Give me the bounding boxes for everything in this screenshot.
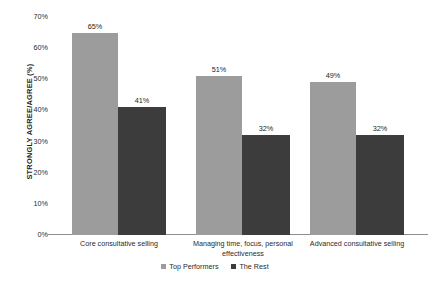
bar-group-0-the-rest xyxy=(118,107,166,235)
bar-value-label-g0s1: 41% xyxy=(118,97,166,105)
y-tick-20: 20% xyxy=(22,169,48,177)
bar-value-label-g2s0: 49% xyxy=(310,72,356,80)
bar-group-0-top-performers xyxy=(72,33,118,235)
legend-swatch-icon-top-performers xyxy=(161,264,166,269)
y-tick-30: 30% xyxy=(22,138,48,146)
legend-item-top-performers: Top Performers xyxy=(161,262,218,271)
legend-item-the-rest: The Rest xyxy=(231,262,268,271)
chart-legend: Top Performers The Rest xyxy=(0,262,430,271)
category-label-0: Core consultative selling xyxy=(59,239,179,249)
y-tick-40: 40% xyxy=(22,106,48,114)
bar-group-1-top-performers xyxy=(196,76,242,235)
y-tick-60: 60% xyxy=(22,44,48,52)
legend-label-top-performers: Top Performers xyxy=(169,262,218,271)
bar-group-1-the-rest xyxy=(242,135,290,235)
y-tick-10: 10% xyxy=(22,200,48,208)
y-tick-50: 50% xyxy=(22,75,48,83)
bar-value-label-g2s1: 32% xyxy=(356,125,404,133)
bar-group-2-top-performers xyxy=(310,82,356,235)
category-label-2: Advanced consultative selling xyxy=(299,239,415,249)
bar-group-2-the-rest xyxy=(356,135,404,235)
bar-value-label-g0s0: 65% xyxy=(72,23,118,31)
legend-label-the-rest: The Rest xyxy=(239,262,268,271)
y-tick-0: 0% xyxy=(22,231,48,239)
bar-chart: STRONGLY AGREE/AGREE (%) 70% 60% 50% 40%… xyxy=(0,0,430,291)
y-tick-70: 70% xyxy=(22,13,48,21)
bar-value-label-g1s1: 32% xyxy=(242,125,290,133)
legend-swatch-icon-the-rest xyxy=(231,264,236,269)
category-label-1: Managing time, focus, personal effective… xyxy=(184,239,302,258)
bar-value-label-g1s0: 51% xyxy=(196,66,242,74)
